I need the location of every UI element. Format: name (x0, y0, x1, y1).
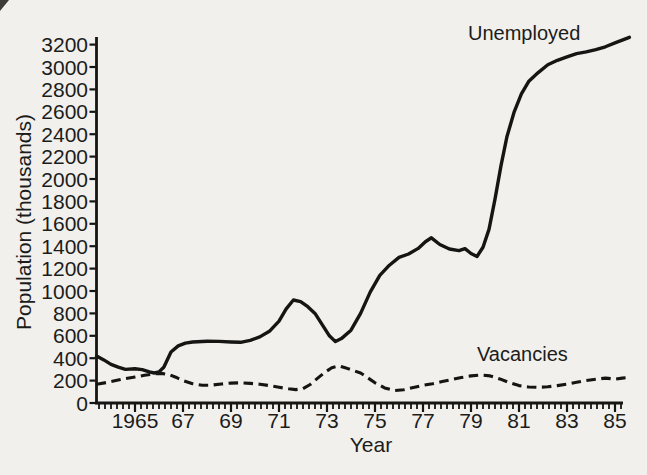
x-tick-label: 77 (411, 409, 434, 432)
x-tick-label: 75 (363, 409, 386, 432)
x-tick-label: 67 (171, 409, 194, 432)
scan-corner-smudge (0, 0, 9, 11)
y-tick-label: 200 (53, 369, 88, 392)
y-tick-label: 2200 (41, 145, 88, 168)
y-axis-ticks (90, 45, 96, 403)
x-tick-label: 71 (267, 409, 290, 432)
vacancies-line (97, 366, 630, 391)
y-tick-label: 2400 (41, 123, 88, 146)
y-axis-title: Population (thousands) (12, 114, 35, 330)
x-tick-label: 69 (219, 409, 242, 432)
y-tick-label: 2600 (41, 100, 88, 123)
y-tick-label: 1600 (41, 212, 88, 235)
y-tick-label: 3200 (41, 33, 88, 56)
y-tick-label: 400 (53, 347, 88, 370)
y-tick-label: 3000 (41, 56, 88, 79)
y-tick-label: 1200 (41, 257, 88, 280)
y-tick-label: 600 (53, 324, 88, 347)
y-tick-label: 2800 (41, 78, 88, 101)
y-tick-label: 1000 (41, 280, 88, 303)
y-axis-tick-labels: 0200400600800100012001400160018002000220… (41, 33, 88, 414)
vacancies-label: Vacancies (477, 343, 568, 365)
x-axis-title: Year (350, 433, 392, 456)
x-tick-label: 83 (555, 409, 578, 432)
y-tick-label: 2000 (41, 168, 88, 191)
x-tick-label: 73 (315, 409, 338, 432)
y-tick-label: 1400 (41, 235, 88, 258)
x-tick-label: 85 (603, 409, 626, 432)
x-tick-label: 81 (507, 409, 530, 432)
x-tick-label: 79 (459, 409, 482, 432)
chart-figure: 0200400600800100012001400160018002000220… (0, 0, 647, 475)
y-tick-label: 0 (76, 392, 88, 415)
unemployed-line (97, 37, 630, 373)
x-axis-tick-labels: 196567697173757779818385 (112, 409, 627, 432)
y-tick-label: 1800 (41, 190, 88, 213)
y-tick-label: 800 (53, 302, 88, 325)
chart-canvas: 0200400600800100012001400160018002000220… (0, 0, 647, 475)
unemployed-label: Unemployed (468, 22, 580, 44)
x-tick-label: 1965 (112, 409, 159, 432)
